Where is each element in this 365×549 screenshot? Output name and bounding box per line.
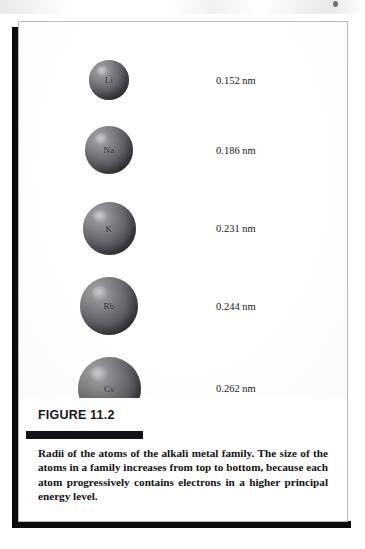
atom-row-na: Na 0.186 nm: [19, 126, 347, 174]
atom-radius-label-na: 0.186 nm: [216, 145, 256, 156]
caption-divider-rule: [26, 431, 143, 439]
sphere-cell-na: Na: [19, 126, 199, 174]
atom-row-rb: Rb 0.244 nm: [19, 277, 347, 335]
figure-caption-text: Radii of the atoms of the alkali metal f…: [38, 446, 328, 504]
atom-row-li: Li 0.152 nm: [19, 60, 347, 100]
atom-radius-label-cs: 0.262 nm: [216, 383, 256, 394]
atom-row-k: K 0.231 nm: [19, 202, 347, 255]
figure-number-label: FIGURE 11.2: [38, 408, 115, 422]
figure-drop-shadow-bottom: [12, 521, 351, 528]
atom-symbol-rb: Rb: [103, 301, 114, 311]
sphere-highlight-icon: [90, 366, 109, 381]
sphere-highlight-icon: [93, 210, 109, 223]
atom-sphere-li: Li: [89, 60, 129, 100]
atom-radius-label-li: 0.152 nm: [216, 75, 256, 86]
sphere-highlight-icon: [92, 286, 109, 300]
atom-symbol-li: Li: [105, 75, 114, 85]
sphere-cell-rb: Rb: [19, 277, 199, 335]
scan-artifact-band: [0, 0, 365, 14]
figure-caption-area: FIGURE 11.2 Radii of the atoms of the al…: [19, 398, 347, 521]
atom-radius-label-k: 0.231 nm: [216, 223, 256, 234]
atom-symbol-cs: Cs: [104, 384, 114, 394]
sphere-highlight-icon: [95, 133, 109, 145]
sphere-cell-k: K: [19, 202, 199, 255]
sphere-cell-li: Li: [19, 60, 199, 100]
atom-sphere-k: K: [83, 202, 136, 255]
atom-sphere-rb: Rb: [80, 277, 138, 335]
atom-symbol-na: Na: [103, 145, 114, 155]
figure-frame: Li 0.152 nm Na 0.186 nm K 0.231 nm: [18, 21, 348, 522]
atom-symbol-k: K: [106, 224, 113, 234]
scan-speck: [333, 1, 338, 7]
atom-illustration-plate: Li 0.152 nm Na 0.186 nm K 0.231 nm: [19, 22, 347, 398]
atom-sphere-na: Na: [85, 126, 133, 174]
atom-radius-label-rb: 0.244 nm: [216, 301, 256, 312]
